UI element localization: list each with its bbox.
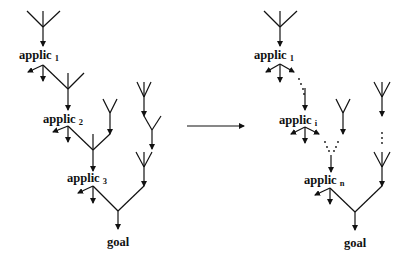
diagram: applic1 applic2 applic3 <box>0 0 407 259</box>
arrow-icon <box>280 64 294 72</box>
node-label-goal: goal <box>107 235 130 249</box>
arrow-icon <box>28 65 43 72</box>
arrow-icon <box>53 126 68 132</box>
arrow-icon <box>266 64 280 72</box>
node-label-applic-2: applic2 <box>43 112 83 127</box>
node-label-applic-1: applic1 <box>254 48 294 63</box>
arrow-icon <box>291 127 305 134</box>
arrow-icon <box>315 188 330 195</box>
left-tree: applic1 applic2 applic3 <box>19 11 161 249</box>
ellipsis-dots <box>324 141 339 152</box>
arrow-icon <box>78 186 93 193</box>
node-label-applic-3: applic3 <box>67 171 107 186</box>
arrow-icon <box>305 127 319 134</box>
node-label-goal: goal <box>344 236 367 250</box>
right-tree: applic1 applici applicn <box>254 11 390 250</box>
vertical-ellipsis <box>381 132 383 144</box>
node-label-applic-1: applic1 <box>19 48 59 63</box>
node-label-applic-i: applici <box>279 113 318 128</box>
fan-icon <box>27 11 60 27</box>
ellipsis-dots <box>298 78 305 95</box>
node-label-applic-n: applicn <box>304 173 345 188</box>
